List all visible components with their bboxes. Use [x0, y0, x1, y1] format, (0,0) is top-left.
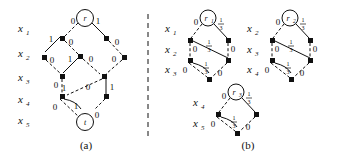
panel-b-block-3: r 3 0 1 3 0 0 1 3 x 4 x 5 [192, 84, 259, 136]
panel-a-edge-label-x2m-right: 0 [89, 54, 94, 64]
panel-b3-var-1: x [192, 96, 198, 108]
panel-b1-var-2: x [164, 43, 170, 55]
panel-a-var-x3-sub: 3 [25, 78, 30, 86]
panel-a-var-x2-sub: 2 [26, 54, 30, 62]
panel-b-block-1: r 1 0 1 3 0 0 1 3 0 0 1 3 [164, 10, 236, 82]
panel-b-root-3-label: r [232, 88, 236, 97]
panel-a-edge-label-r-left: 0 [71, 16, 76, 26]
panel-a-edge-label-x4l-left: 0 [53, 102, 58, 112]
panel-b2-frac-low: 1 3 [285, 61, 291, 75]
panel-b2-edge-cross [275, 41, 310, 58]
panel-a-node-x3-left [60, 74, 65, 79]
panel-b1-frac-low-num: 1 [205, 61, 208, 67]
panel-a-edge-label-x3l-right: 1 [62, 83, 67, 93]
panel-b2-label-root-left: 0 [276, 17, 281, 27]
panel-b3-node-low-left [216, 112, 221, 117]
panel-a-var-x4: x [17, 93, 23, 105]
panel-b-root-2-sub: 2 [293, 18, 296, 24]
panel-b2-var-2: x [246, 43, 252, 55]
panel-a-node-x2-left [42, 55, 47, 60]
panel-b3-label-low-right: 0 [246, 122, 251, 132]
panel-a-edge-label-x1l-left: 1 [49, 34, 54, 44]
panel-b3-node-bottom [235, 131, 240, 136]
panel-b1-node-right [226, 38, 231, 43]
panel-b1-label-root-left: 0 [194, 17, 199, 27]
panel-b3-var-2: x [192, 117, 198, 129]
panel-b2-node-right [308, 38, 313, 43]
panel-a-variable-labels: x 1 x 2 x 3 x 4 x 5 [17, 22, 30, 129]
panel-a-edge-label-x3l-down: 0 [54, 80, 59, 90]
panel-b1-frac-low-den: 3 [205, 69, 208, 75]
panel-b2-frac-mid: 1 3 [288, 39, 294, 53]
panel-b2-label-right-down: 0 [313, 44, 318, 54]
panel-a-node-x2-mid [78, 54, 83, 59]
caption-a: (a) [80, 139, 93, 152]
panel-b2-frac-low-den: 3 [287, 69, 290, 75]
panel-b2-var-3-sub: 4 [255, 70, 259, 78]
panel-a-node-x4-left [60, 94, 65, 99]
panel-a-edge-label-x1r-right: 0 [115, 37, 120, 47]
panel-b1-frac-low: 1 3 [203, 61, 209, 75]
panel-a-var-x1-sub: 1 [26, 29, 30, 37]
panel-a-edge-label-x3r-left: 0 [86, 82, 91, 92]
panel-a-edge-x4r-right [94, 99, 105, 110]
panel-b3-frac-low-den: 3 [233, 123, 236, 129]
panel-b1-var-3: x [164, 63, 170, 75]
panel-b2-node-left [270, 38, 275, 43]
panel-a-edge-label-x2r-right: 0 [112, 54, 117, 64]
panel-b2-frac-mid-num: 1 [290, 39, 293, 45]
panel-a-terminal-node: t [77, 114, 94, 131]
panel-b1-frac-root-den: 3 [220, 25, 223, 31]
panel-b2-frac-root-right: 1 3 [300, 17, 306, 31]
panel-b1-label-left-down: 0 [193, 44, 198, 54]
figure-container: r 0 1 1 0 0 0 1 0 0 0 1 0 1 0 1 0 t [0, 0, 337, 164]
panel-b1-var-2-sub: 2 [173, 50, 177, 58]
panel-a-node-x1-left [60, 36, 65, 41]
panel-a-edge-label-x4r-right: 0 [95, 110, 100, 120]
panel-a-edge-x4l-curve [64, 99, 81, 109]
panel-b1-frac-root-right: 1 3 [218, 17, 224, 31]
panel-a-edge-label-x2m-left: 1 [68, 54, 73, 64]
panel-b-root-1-sub: 1 [211, 18, 214, 24]
panel-b1-label-low-right: 0 [218, 68, 223, 78]
panel-b3-frac-root-num: 1 [248, 91, 251, 97]
panel-b-root-1-label: r [204, 14, 208, 23]
panel-b2-frac-mid-den: 3 [290, 47, 293, 53]
panel-b-root-2-label: r [286, 14, 290, 23]
panel-b3-label-low-left: 0 [211, 119, 216, 129]
panel-a-var-x4-sub: 4 [26, 100, 30, 108]
panel-a-var-x5: x [17, 114, 23, 126]
panel-b1-node-left [188, 38, 193, 43]
panel-a-edge-x3r-left [67, 79, 102, 95]
panel-a-var-x1: x [17, 22, 23, 34]
panel-b2-label-left-down: 0 [275, 44, 280, 54]
panel-b1-node-low-right [226, 58, 231, 63]
panel-a-node-x1-right [104, 36, 109, 41]
panel-b1-label-right-down: 0 [231, 44, 236, 54]
panel-b2-var-3: x [246, 63, 252, 75]
panel-b3-label-root-left: 0 [222, 91, 227, 101]
panel-b1-frac-mid-num: 1 [208, 39, 211, 45]
panel-b1-frac-root-num: 1 [220, 17, 223, 23]
panel-b3-var-2-sub: 5 [201, 124, 205, 132]
panel-b-root-3-sub: 3 [238, 92, 242, 98]
panel-b1-node-low-left [188, 58, 193, 63]
panel-a-var-x5-sub: 5 [26, 121, 30, 129]
panel-b2-var-2-sub: 3 [254, 50, 259, 58]
panel-a-node-x3-right [102, 74, 107, 79]
panel-b1-var-1: x [164, 22, 170, 34]
panel-b2-frac-root-num: 1 [302, 17, 305, 23]
panel-a-node-x4-right [104, 94, 109, 99]
panel-b3-frac-root-right: 1 3 [246, 91, 252, 105]
panel-b1-frac-mid: 1 3 [206, 39, 212, 53]
panel-a-node-x2-right [122, 55, 127, 60]
panel-a-edge-label-x3r-down: 1 [110, 82, 115, 92]
panel-b1-edge-cross [193, 41, 228, 58]
panel-b1-node-bottom [207, 77, 212, 82]
panel-b2-var-1: x [246, 22, 252, 34]
panel-a-edge-label-r-right: 1 [96, 16, 101, 26]
panel-b2-var-1-sub: 2 [255, 29, 259, 37]
panel-a-edge-label-terminal-left: 1 [74, 101, 79, 111]
panel-a-terminal-label: t [84, 118, 87, 127]
panel-b2-node-low-left [270, 58, 275, 63]
